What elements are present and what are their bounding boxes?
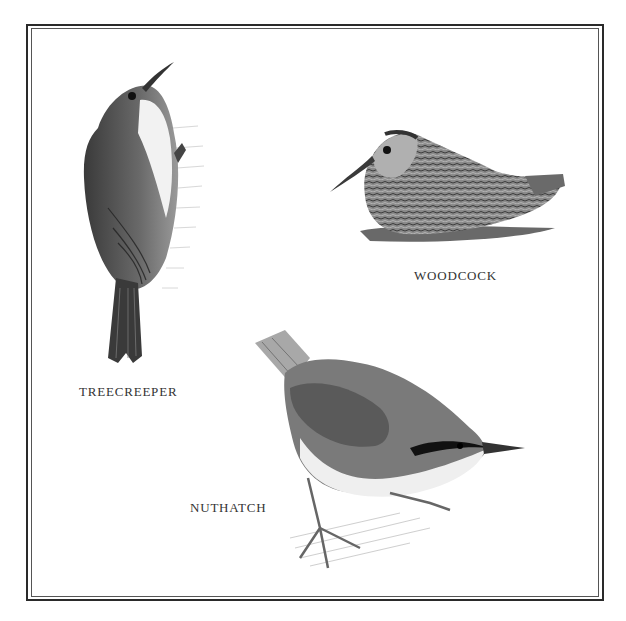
nuthatch-label: NUTHATCH [190, 500, 266, 516]
woodcock-illustration [325, 126, 570, 251]
treecreeper-illustration [78, 58, 208, 373]
treecreeper-label: TREECREEPER [79, 384, 177, 400]
nuthatch-illustration [250, 328, 530, 576]
woodcock-label: WOODCOCK [414, 268, 497, 284]
